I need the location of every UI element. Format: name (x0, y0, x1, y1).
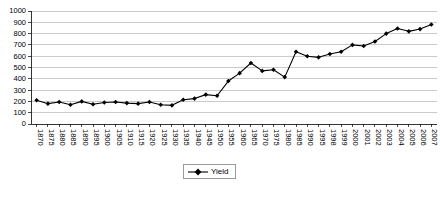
x-axis-tick-label: 2003 (385, 129, 394, 146)
x-axis-tick-label: 2006 (419, 129, 428, 146)
x-axis-tick-label: 1915 (137, 129, 146, 146)
legend-label-yield: Yield (211, 168, 229, 176)
y-axis-tick-label: 400 (13, 74, 26, 83)
x-axis-tick-label: 1998 (329, 129, 338, 146)
y-axis-tick-label: 200 (13, 97, 26, 106)
data-point-marker (113, 100, 118, 105)
data-point-marker (91, 102, 96, 107)
x-axis-tick-label: 1950 (216, 129, 225, 146)
data-point-marker (204, 92, 209, 97)
y-axis-tickmarks (28, 11, 31, 124)
x-axis-tick-label: 1870 (36, 129, 45, 146)
data-point-marker (46, 101, 51, 106)
x-axis-tick-label: 1925 (160, 129, 169, 146)
x-axis-tick-labels: 1870187518801885189018951900190519101915… (36, 129, 440, 146)
chart-container: 10009008007006005004003002001000 1870187… (0, 0, 440, 198)
x-axis-tick-label: 1970 (261, 129, 270, 146)
x-axis-tick-label: 2000 (351, 129, 360, 146)
y-axis-tick-label: 0 (22, 119, 26, 128)
x-axis-tick-label: 2005 (408, 129, 417, 146)
x-axis-tick-label: 1930 (171, 129, 180, 146)
y-axis-tick-label: 100 (13, 108, 26, 117)
x-axis-tick-label: 1955 (227, 129, 236, 146)
data-point-marker (429, 22, 434, 27)
x-axis-tick-label: 1995 (318, 129, 327, 146)
y-axis-tick-label: 900 (13, 18, 26, 27)
chart-legend: Yield (183, 164, 236, 179)
data-point-marker (147, 100, 152, 105)
x-axis-tickmarks (37, 124, 432, 127)
data-point-marker (170, 103, 175, 108)
data-point-marker (407, 29, 412, 34)
data-point-marker (339, 49, 344, 54)
x-axis-tick-label: 1900 (103, 129, 112, 146)
data-point-marker (192, 96, 197, 101)
x-axis-tick-label: 1885 (69, 129, 78, 146)
x-axis-tick-label: 1999 (340, 129, 349, 146)
data-point-marker (34, 98, 39, 103)
x-axis-tick-label: 1990 (306, 129, 315, 146)
y-axis-tick-labels: 10009008007006005004003002001000 (9, 6, 26, 128)
data-point-marker (158, 102, 163, 107)
x-axis-tick-label: 2004 (397, 129, 406, 146)
x-axis-tick-label: 1985 (295, 129, 304, 146)
x-axis-tick-label: 1975 (272, 129, 281, 146)
y-axis-tick-label: 600 (13, 52, 26, 61)
x-axis-tick-label: 1960 (239, 129, 248, 146)
x-axis-tick-label: 2002 (374, 129, 383, 146)
x-axis-tick-label: 1920 (148, 129, 157, 146)
x-axis-tick-label: 1880 (58, 129, 67, 146)
y-axis-tick-label: 500 (13, 63, 26, 72)
data-point-marker (395, 26, 400, 31)
gridlines (31, 11, 437, 113)
x-axis-tick-label: 2001 (363, 129, 372, 146)
x-axis-tick-label: 1935 (182, 129, 191, 146)
data-point-marker (328, 52, 333, 57)
data-point-marker (305, 54, 310, 59)
data-point-marker (136, 101, 141, 106)
data-point-marker (102, 100, 107, 105)
x-axis-tick-label: 1965 (250, 129, 259, 146)
x-axis-tick-label: 1905 (115, 129, 124, 146)
x-axis-tick-label: 1980 (284, 129, 293, 146)
legend-marker-icon (188, 168, 208, 176)
series-line-yield (37, 25, 432, 106)
x-axis-tick-label: 2007 (430, 129, 439, 146)
data-point-marker (361, 44, 366, 49)
y-axis-tick-label: 700 (13, 40, 26, 49)
series-markers-yield (34, 22, 433, 107)
data-point-marker (57, 100, 62, 105)
data-point-marker (79, 99, 84, 104)
x-axis-tick-label: 1895 (92, 129, 101, 146)
x-axis-tick-label: 1890 (81, 129, 90, 146)
y-axis-tick-label: 1000 (9, 6, 26, 15)
x-axis-tick-label: 1940 (194, 129, 203, 146)
data-point-marker (294, 49, 299, 54)
y-axis-tick-label: 300 (13, 86, 26, 95)
x-axis-tick-label: 1945 (205, 129, 214, 146)
data-point-marker (418, 27, 423, 32)
y-axis-tick-label: 800 (13, 29, 26, 38)
data-point-marker (316, 55, 321, 60)
x-axis-tick-label: 1875 (47, 129, 56, 146)
data-point-marker (68, 102, 73, 107)
x-axis-tick-label: 1910 (126, 129, 135, 146)
